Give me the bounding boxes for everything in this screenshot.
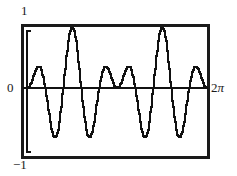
pi-symbol: π bbox=[218, 80, 225, 95]
y-axis-zero-label: 0 bbox=[7, 81, 14, 94]
x-axis-max-label: 2π bbox=[211, 81, 224, 94]
plot-svg bbox=[0, 0, 237, 176]
figure-container: 1 0 −1 2π bbox=[0, 0, 237, 176]
y-axis-min-label: −1 bbox=[13, 158, 27, 171]
y-axis-max-label: 1 bbox=[21, 4, 28, 17]
